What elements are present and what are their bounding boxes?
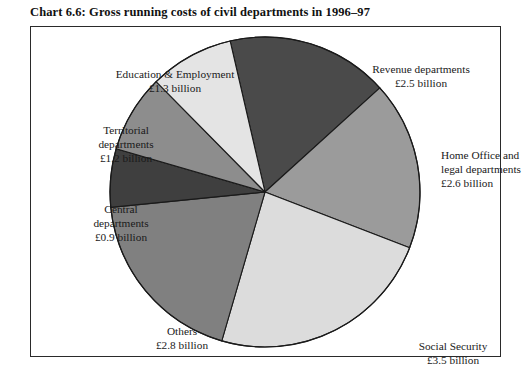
slice-label-central-name1: Central	[69, 202, 173, 216]
slice-label-social-security-value: £3.5 billion	[383, 353, 523, 367]
slice-label-territorial-name2: departments	[78, 137, 174, 151]
slice-label-home-office-name2: legal departments	[441, 162, 531, 176]
slice-label-territorial: Territorial departments £1.2 billion	[78, 123, 174, 166]
slice-label-home-office: Home Office and legal departments £2.6 b…	[441, 148, 531, 191]
chart-page: Chart 6.6: Gross running costs of civil …	[0, 0, 531, 371]
slice-label-central: Central departments £0.9 billion	[69, 202, 173, 245]
slice-label-others-value: £2.8 billion	[127, 338, 237, 352]
slice-label-territorial-value: £1.2 billion	[78, 151, 174, 165]
slice-label-home-office-name1: Home Office and	[441, 148, 531, 162]
slice-label-revenue: Revenue departments £2.5 billion	[346, 62, 496, 90]
slice-label-social-security-name: Social Security	[383, 339, 523, 353]
page-title: Chart 6.6: Gross running costs of civil …	[30, 5, 370, 20]
slice-label-education-value: £1.3 billion	[89, 81, 261, 95]
slice-label-education-name: Education & Employment	[89, 67, 261, 81]
slice-label-home-office-value: £2.6 billion	[441, 176, 531, 190]
slice-label-central-value: £0.9 billion	[69, 230, 173, 244]
slice-label-education: Education & Employment £1.3 billion	[89, 67, 261, 95]
slice-label-social-security: Social Security £3.5 billion	[383, 339, 523, 367]
slice-label-central-name2: departments	[69, 216, 173, 230]
slice-label-revenue-value: £2.5 billion	[346, 76, 496, 90]
slice-label-revenue-name: Revenue departments	[346, 62, 496, 76]
slice-label-others-name: Others	[127, 324, 237, 338]
slice-label-others: Others £2.8 billion	[127, 324, 237, 352]
slice-label-territorial-name1: Territorial	[78, 123, 174, 137]
plot-frame: Education & Employment £1.3 billion Terr…	[30, 26, 501, 357]
